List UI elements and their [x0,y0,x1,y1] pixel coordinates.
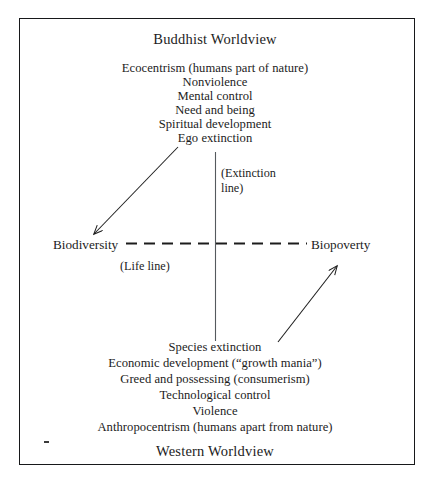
bottom-list-item: Anthropocentrism (humans apart from natu… [0,421,430,434]
bottom-list-item: Species extinction [0,341,430,354]
scan-artifact-bottom-left [44,441,49,443]
axis-label-biodiversity: Biodiversity [53,238,118,251]
arrow-to-biodiversity [94,147,178,234]
figure-page: Buddhist Worldview Ecocentrism (humans p… [0,0,430,489]
bottom-list-item: Technological control [0,389,430,402]
extinction-line-annotation-line2: line) [221,181,243,195]
life-line-annotation: (Life line) [120,259,170,273]
arrow-to-biopoverty [278,266,337,342]
axis-label-biopoverty: Biopoverty [311,238,370,251]
bottom-heading: Western Worldview [0,444,430,459]
extinction-line-annotation-line1: (Extinction [221,166,276,180]
bottom-list-item: Economic development (“growth mania”) [0,357,430,370]
bottom-list-item: Greed and possessing (consumerism) [0,373,430,386]
bottom-list-item: Violence [0,405,430,418]
